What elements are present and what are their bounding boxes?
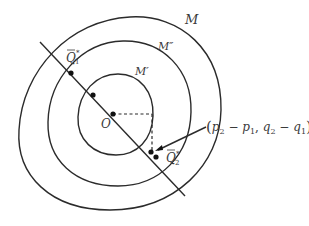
arrowhead-icon [155, 145, 163, 151]
q2-subscript: 2 [175, 159, 179, 167]
point-origin [110, 111, 115, 116]
q1-subscript: 1 [75, 58, 79, 66]
point-q2 [153, 154, 158, 159]
label-q1: Q 1 * [66, 49, 80, 66]
diagonal-line [40, 42, 185, 196]
indifference-curve-diagram: M M″ M′ O Q 1 * Q 2 * (p2 − p1, q2 − q1) [0, 0, 309, 226]
point-inner-intersection [90, 92, 95, 97]
annotation-pointer-line [158, 127, 206, 150]
label-m: M [184, 12, 199, 27]
label-q2: Q 2 * [166, 150, 180, 167]
annotation-vector: (p2 − p1, q2 − q1) [206, 118, 309, 136]
q1-superscript: * [76, 49, 80, 57]
label-m-double-prime: M″ [157, 40, 174, 53]
point-offset [148, 149, 153, 154]
point-q1 [68, 70, 73, 75]
label-origin: O [101, 117, 111, 131]
label-m-prime: M′ [134, 65, 149, 78]
q2-superscript: * [176, 150, 180, 158]
